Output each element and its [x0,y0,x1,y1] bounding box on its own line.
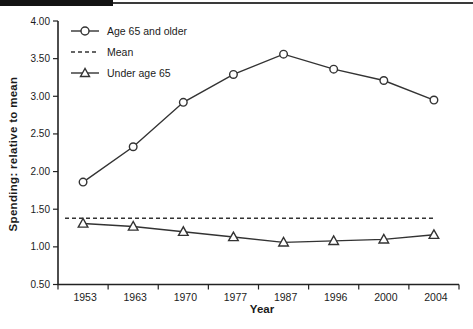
legend-label: Age 65 and older [107,25,187,37]
marker-triangle-under-age-65 [78,219,88,228]
dashed-line-icon [70,46,100,58]
x-tick-label: 1963 [124,291,148,303]
legend-item-under-age-65: Under age 65 [70,67,187,79]
marker-circle-age-65-and-older [330,65,338,73]
marker-circle-age-65-and-older [280,50,288,58]
y-tick-label: 3.50 [31,53,51,64]
x-tick-label: 2000 [374,291,398,303]
y-tick-label: 1.50 [31,204,51,215]
legend-item-mean: Mean [70,46,187,58]
y-tick-label: 0.50 [31,279,51,290]
y-tick-label: 2.50 [31,128,51,139]
marker-circle-age-65-and-older [380,77,388,85]
x-tick-label: 2004 [424,291,448,303]
y-tick-label: 3.00 [31,91,51,102]
y-axis-title: Spending: relative to mean [7,77,19,232]
marker-circle-age-65-and-older [79,178,87,186]
marker-circle-age-65-and-older [129,143,137,151]
x-tick-label: 1987 [274,291,298,303]
marker-circle-age-65-and-older [180,99,188,107]
circle-marker-icon [70,25,100,37]
triangle-marker-icon [70,67,100,79]
x-axis-title: Year [250,303,274,315]
y-tick-label: 2.00 [31,166,51,177]
y-tick-label: 4.00 [31,16,51,27]
legend: Age 65 and older Mean Under age 65 [70,25,187,88]
marker-triangle-under-age-65 [429,230,439,239]
marker-circle-age-65-and-older [430,96,438,104]
y-tick-label: 1.00 [31,241,51,252]
x-tick-label: 1996 [324,291,348,303]
figure: 0.501.001.502.002.503.003.504.0019531963… [0,0,473,329]
legend-item-age-65-and-older: Age 65 and older [70,25,187,37]
marker-circle-age-65-and-older [230,71,238,79]
x-tick-label: 1953 [73,291,97,303]
x-tick-label: 1970 [174,291,198,303]
legend-label: Mean [107,46,133,58]
legend-label: Under age 65 [107,67,171,79]
x-tick-label: 1977 [224,291,248,303]
